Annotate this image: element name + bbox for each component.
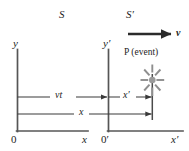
measurement-x-label: x	[79, 107, 83, 117]
diagram-vector-layer	[0, 0, 189, 151]
measurement-xprime-label: x′	[123, 90, 130, 100]
measurement-xprime	[109, 90, 152, 103]
measurement-vt-label: vt	[55, 90, 62, 100]
velocity-label: v	[176, 28, 180, 38]
frame-sprime-label: S′	[126, 9, 134, 20]
physics-diagram-galilean-frames: S S′ v P (event) y x 0 y′ x′ 0′ vt x′ x	[0, 0, 189, 151]
sprime-x-axis-label: x′	[171, 134, 178, 145]
sprime-origin-label: 0′	[101, 134, 109, 145]
s-origin-label: 0	[11, 134, 17, 145]
measurement-vt	[18, 90, 108, 103]
event-label: P (event)	[124, 48, 158, 58]
frame-s-label: S	[59, 9, 65, 20]
s-y-axis-label: y	[13, 38, 18, 49]
sprime-y-axis-label: y′	[103, 38, 110, 49]
s-x-axis-label: x	[82, 134, 87, 145]
measurement-x	[18, 107, 152, 120]
event-starburst-icon	[141, 65, 165, 97]
